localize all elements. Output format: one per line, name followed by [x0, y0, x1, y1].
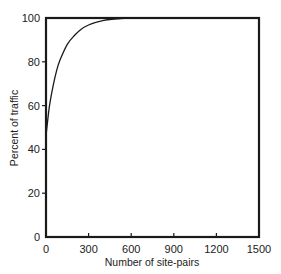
y-axis-label: Percent of traffic: [8, 90, 20, 166]
y-tick-label: 20: [28, 187, 40, 199]
x-tick-label: 900: [165, 243, 183, 255]
chart: 020406080100 030060090012001500 Number o…: [0, 0, 281, 274]
y-tick-label: 0: [34, 231, 40, 243]
y-tick-label: 40: [28, 143, 40, 155]
x-tick-label: 0: [43, 243, 49, 255]
y-axis-ticks: 020406080100: [22, 12, 46, 243]
y-tick-label: 100: [22, 12, 40, 24]
x-axis-label: Number of site-pairs: [105, 256, 200, 268]
plot-frame: [46, 18, 259, 237]
x-tick-label: 1200: [204, 243, 228, 255]
traffic-curve: [46, 18, 259, 136]
y-tick-label: 60: [28, 100, 40, 112]
x-tick-label: 600: [122, 243, 140, 255]
x-tick-label: 1500: [247, 243, 271, 255]
x-tick-label: 300: [79, 243, 97, 255]
y-tick-label: 80: [28, 56, 40, 68]
